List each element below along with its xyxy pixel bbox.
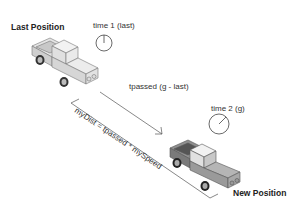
clock-time2-icon	[209, 114, 229, 134]
clock-time1-icon	[96, 35, 112, 51]
last-position-label: Last Position	[11, 22, 64, 32]
time2-label: time 2 (g)	[211, 104, 245, 113]
time1-label: time 1 (last)	[93, 21, 135, 30]
new-position-label: New Position	[233, 188, 286, 198]
tpassed-label: tpassed (g - last)	[129, 82, 189, 91]
